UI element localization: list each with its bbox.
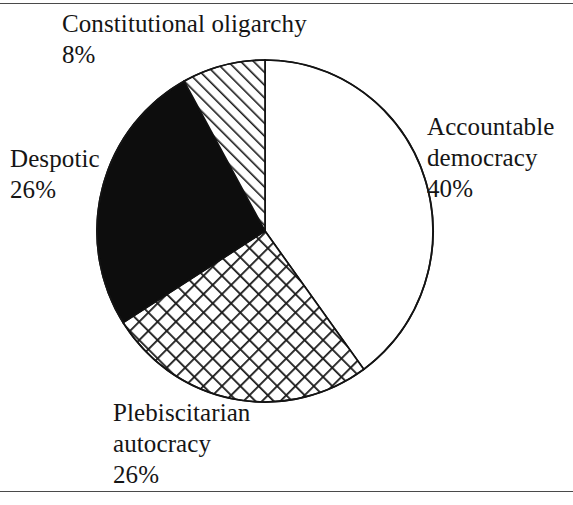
slice-label-percent: 26% — [10, 174, 100, 205]
slice-label-percent: 40% — [427, 173, 554, 204]
pie-chart-figure: Constitutional oligarchy 8% Accountable … — [0, 0, 573, 505]
slice-label-plebiscitarian-autocracy: Plebiscitarian autocracy 26% — [113, 397, 250, 490]
slice-label-name: Constitutional oligarchy — [62, 10, 307, 37]
slice-label-constitutional-oligarchy: Constitutional oligarchy 8% — [62, 8, 307, 70]
slice-label-accountable-democracy: Accountable democracy 40% — [427, 111, 554, 204]
slice-label-name: Despotic — [10, 145, 100, 172]
slice-label-name-line2: democracy — [427, 142, 554, 173]
slice-label-percent: 8% — [62, 39, 307, 70]
slice-label-percent: 26% — [113, 459, 250, 490]
pie-chart-graphic — [0, 0, 573, 505]
slice-label-name-line2: autocracy — [113, 428, 250, 459]
bottom-divider-rule — [0, 491, 573, 492]
slice-label-name-line1: Accountable — [427, 113, 554, 140]
slice-label-name-line1: Plebiscitarian — [113, 399, 250, 426]
slice-label-despotic: Despotic 26% — [10, 143, 100, 205]
